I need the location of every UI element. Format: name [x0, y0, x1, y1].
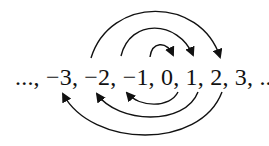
arrow-1-to-neg1 [127, 92, 178, 104]
arrow-2-to-neg2 [97, 92, 198, 117]
arrow-3-to-neg3 [63, 92, 222, 135]
arrow-neg2-to-2 [121, 28, 193, 56]
integer-sequence: ..., −3, −2, −1, 0, 1, 2, 3, ... [15, 64, 269, 91]
arrow-neg3-to-3 [91, 11, 220, 58]
arrow-neg1-to-1 [150, 45, 173, 57]
integer-arrow-diagram: ..., −3, −2, −1, 0, 1, 2, 3, ... [0, 0, 269, 146]
